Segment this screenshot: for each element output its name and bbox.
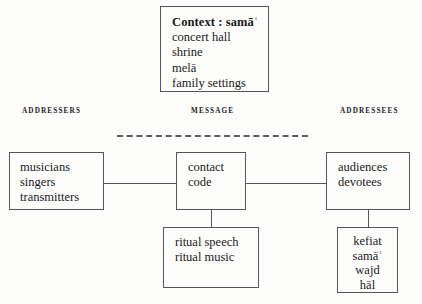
dashed-separator (117, 135, 308, 137)
context-box-item: family settings (172, 76, 259, 91)
message-box-item: contact (188, 160, 236, 175)
context-box-title: Context : samāʿ (172, 15, 259, 30)
addressees-detail-box: kefiat samāʿ wajd hāl (337, 227, 398, 293)
addressees-box-item: audiences (338, 160, 400, 175)
addressees-detail-item: hāl (338, 278, 397, 293)
context-box-item: concert hall (172, 30, 259, 45)
addressers-box-item: transmitters (20, 190, 94, 205)
addressees-detail-item: kefiat (338, 234, 397, 249)
addressees-box: audiences devotees (326, 152, 410, 210)
connector-addressers-to-message (103, 183, 177, 184)
context-box: Context : samāʿ concert hall shrine melā… (160, 6, 269, 92)
message-detail-box: ritual speech ritual music (163, 227, 259, 288)
column-label-addressees: ADDRESSEES (340, 107, 399, 115)
column-label-addressers: ADDRESSERS (22, 107, 81, 115)
message-detail-item: ritual speech (175, 235, 249, 250)
context-box-item: melā (172, 61, 259, 76)
addressees-detail-item: samāʿ (338, 249, 397, 264)
connector-message-to-addressees (245, 183, 327, 184)
addressers-box: musicians singers transmitters (9, 152, 104, 210)
connector-message-to-detail (211, 210, 212, 227)
message-box-item: code (188, 175, 236, 190)
message-detail-item: ritual music (175, 250, 249, 265)
addressees-box-item: devotees (338, 175, 400, 190)
addressers-box-item: musicians (20, 160, 94, 175)
addressees-detail-item: wajd (338, 263, 397, 278)
communication-model-diagram: Context : samāʿ concert hall shrine melā… (0, 0, 422, 304)
connector-addressees-to-detail (368, 210, 369, 227)
context-box-item: shrine (172, 45, 259, 60)
message-box: contact code (176, 152, 246, 210)
addressers-box-item: singers (20, 175, 94, 190)
column-label-message: MESSAGE (191, 107, 234, 115)
